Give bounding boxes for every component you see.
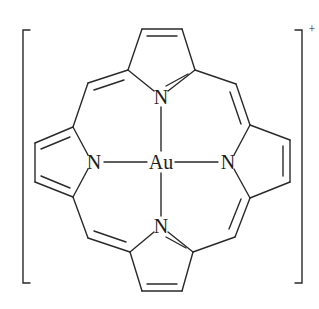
right-pyrrole xyxy=(234,125,290,198)
meso-bridge-bottom-right xyxy=(193,198,250,252)
svg-text:N: N xyxy=(154,215,168,237)
svg-text:N: N xyxy=(87,151,101,173)
left-bracket xyxy=(23,30,30,283)
meso-bridge-top-right xyxy=(195,70,250,125)
left-pyrrole xyxy=(35,127,88,197)
atom-label-n-top: N xyxy=(154,86,168,108)
top-pyrrole xyxy=(128,29,195,91)
porphyrin-diagram: N N N N Au + xyxy=(0,0,319,309)
atom-label-au: Au xyxy=(149,151,173,173)
svg-text:N: N xyxy=(154,86,168,108)
right-bracket xyxy=(295,30,302,283)
meso-bridge-bottom-left xyxy=(73,197,130,252)
atom-label-n-left: N xyxy=(87,151,101,173)
charge-label: + xyxy=(309,22,316,36)
meso-bridge-top-left xyxy=(73,70,128,127)
svg-text:Au: Au xyxy=(149,151,173,173)
bottom-pyrrole xyxy=(130,232,193,291)
atom-label-n-bottom: N xyxy=(154,215,168,237)
atom-label-n-right: N xyxy=(221,151,235,173)
svg-text:N: N xyxy=(221,151,235,173)
